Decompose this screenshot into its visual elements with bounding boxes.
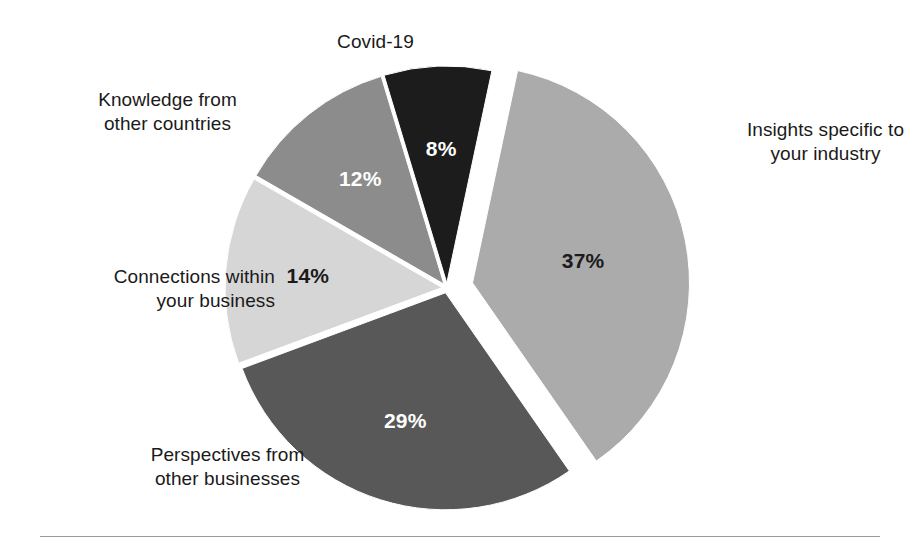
pie-value-perspectives: 29% — [384, 409, 427, 432]
pie-value-knowledge: 12% — [339, 167, 382, 190]
slice-label-connections: Connections within your business — [30, 265, 275, 314]
slice-label-covid: Covid-19 — [268, 30, 483, 54]
slice-label-perspectives: Perspectives from other businesses — [110, 443, 345, 492]
slice-label-insights: Insights specific to your industry — [718, 118, 917, 167]
slice-label-knowledge: Knowledge from other countries — [60, 88, 275, 137]
footer-divider — [40, 536, 880, 537]
pie-value-covid: 8% — [426, 137, 457, 160]
pie-value-insights: 37% — [562, 249, 605, 272]
pie-chart-figure: 37%29%14%12%8% Covid-19 Knowledge from o… — [0, 0, 917, 554]
pie-value-connections: 14% — [287, 264, 330, 287]
